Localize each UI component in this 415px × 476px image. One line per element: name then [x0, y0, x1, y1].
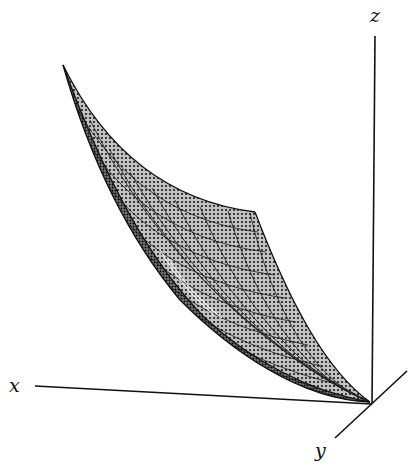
- surface-figure: z x y: [0, 0, 415, 476]
- surface: [63, 65, 370, 404]
- x-axis-label: x: [9, 374, 20, 396]
- z-axis: [372, 36, 375, 403]
- y-axis-label: y: [314, 439, 326, 461]
- z-axis-label: z: [369, 4, 381, 26]
- surface-main: [63, 65, 370, 402]
